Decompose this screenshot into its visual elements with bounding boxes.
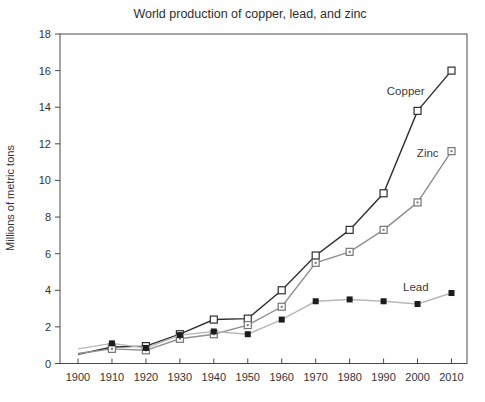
y-tick-label: 18 (39, 28, 51, 40)
x-tick-label: 1920 (134, 371, 158, 383)
plot-border (60, 34, 467, 364)
y-tick-label: 2 (45, 321, 51, 333)
marker-filled-square (449, 290, 455, 296)
y-tick-label: 0 (45, 358, 51, 370)
marker-open-square (414, 107, 421, 114)
chart-container: World production of copper, lead, and zi… (0, 0, 485, 402)
series-line-copper (78, 71, 452, 355)
marker-filled-square (211, 328, 217, 334)
x-tick-label: 2010 (439, 371, 463, 383)
marker-filled-square (347, 296, 353, 302)
marker-open-square (312, 252, 319, 259)
marker-center-dot (247, 324, 249, 326)
series-label-lead: Lead (403, 281, 429, 293)
y-tick-label: 14 (39, 101, 51, 113)
y-tick-label: 12 (39, 138, 51, 150)
x-tick-label: 1970 (303, 371, 327, 383)
marker-filled-square (245, 331, 251, 337)
x-tick-label: 1940 (202, 371, 226, 383)
marker-filled-square (279, 317, 285, 323)
marker-open-square (210, 316, 217, 323)
series-label-zinc: Zinc (417, 147, 439, 159)
y-tick-label: 8 (45, 211, 51, 223)
marker-open-square (278, 287, 285, 294)
y-tick-label: 4 (45, 284, 51, 296)
series-line-zinc (78, 151, 452, 353)
x-tick-label: 1900 (66, 371, 90, 383)
y-axis-title: Millions of metric tons (4, 145, 16, 251)
series-line-lead (78, 293, 452, 349)
marker-center-dot (349, 251, 351, 253)
marker-filled-square (109, 340, 115, 346)
marker-center-dot (281, 306, 283, 308)
y-tick-label: 6 (45, 248, 51, 260)
x-tick-label: 2000 (405, 371, 429, 383)
x-tick-label: 1950 (236, 371, 260, 383)
plot-area: 0246810121416181900191019201930194019501… (39, 28, 467, 383)
marker-filled-square (415, 301, 421, 307)
marker-filled-square (313, 298, 319, 304)
series-label-copper: Copper (387, 85, 425, 97)
marker-center-dot (451, 150, 453, 152)
marker-open-square (448, 67, 455, 74)
marker-center-dot (111, 348, 113, 350)
marker-filled-square (143, 345, 149, 351)
chart-title: World production of copper, lead, and zi… (133, 7, 366, 21)
marker-center-dot (417, 201, 419, 203)
production-line-chart: World production of copper, lead, and zi… (0, 0, 485, 402)
y-tick-label: 10 (39, 174, 51, 186)
x-tick-label: 1990 (371, 371, 395, 383)
x-tick-label: 1910 (100, 371, 124, 383)
series-copper: Copper (78, 67, 455, 354)
marker-center-dot (383, 229, 385, 231)
marker-filled-square (177, 332, 183, 338)
marker-open-square (380, 190, 387, 197)
series-zinc: Zinc (78, 147, 455, 354)
marker-filled-square (381, 298, 387, 304)
x-tick-label: 1930 (168, 371, 192, 383)
y-tick-label: 16 (39, 65, 51, 77)
marker-open-square (346, 226, 353, 233)
marker-center-dot (315, 262, 317, 264)
x-tick-label: 1960 (269, 371, 293, 383)
x-tick-label: 1980 (337, 371, 361, 383)
